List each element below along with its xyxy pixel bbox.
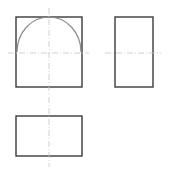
top-view	[16, 97, 82, 167]
side-view-outline	[115, 17, 153, 87]
orthographic-drawing	[0, 0, 169, 176]
side-view	[105, 17, 161, 87]
front-view	[8, 8, 89, 95]
